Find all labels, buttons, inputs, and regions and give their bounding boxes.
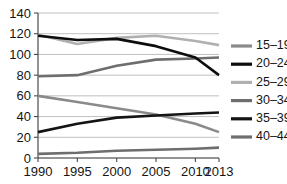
x-tick-label: 2005 [142,164,171,179]
y-tick-label: 40 [17,109,31,124]
y-tick-label: 140 [9,6,31,21]
legend-label: 40–44 [256,129,287,143]
series-line-40-44 [38,148,219,154]
legend-label: 30–34 [256,93,287,107]
chart-legend: 15–1920–2425–2930–3435–3940–44 [231,38,287,143]
x-tick-label: 2013 [205,164,234,179]
x-tick-marks [38,158,219,162]
chart-canvas: 020406080100120140 199019952000200520102… [0,0,287,184]
y-tick-labels: 020406080100120140 [9,6,31,166]
y-tick-label: 100 [9,47,31,62]
line-chart: 020406080100120140 199019952000200520102… [0,0,287,184]
y-tick-label: 120 [9,26,31,41]
legend-label: 35–39 [256,111,287,125]
y-tick-label: 80 [17,68,31,83]
x-tick-labels: 199019952000200520102013 [24,164,234,179]
gridlines [38,13,219,158]
x-tick-label: 2000 [102,164,131,179]
x-tick-label: 1995 [63,164,92,179]
y-tick-label: 60 [17,88,31,103]
legend-label: 15–19 [256,38,287,52]
series-line-30-34 [38,58,219,77]
y-tick-label: 20 [17,130,31,145]
series-lines [38,35,219,154]
legend-label: 20–24 [256,56,287,70]
x-tick-label: 1990 [24,164,53,179]
legend-label: 25–29 [256,75,287,89]
